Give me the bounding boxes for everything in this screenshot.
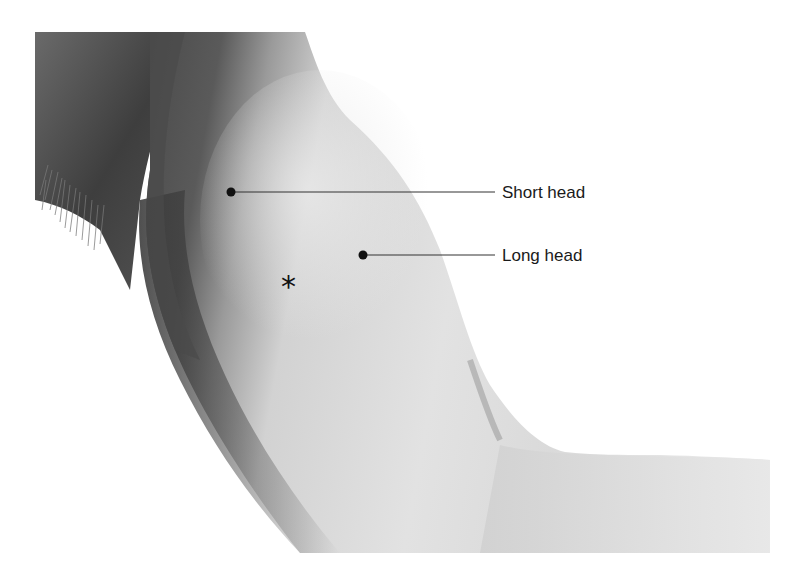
biceps-highlight bbox=[200, 70, 440, 370]
asterisk-marker: * bbox=[281, 272, 296, 302]
short-head-label: Short head bbox=[502, 184, 585, 201]
long-head-label: Long head bbox=[502, 247, 582, 264]
short-head-marker-dot bbox=[227, 188, 236, 197]
arm-illustration bbox=[0, 0, 800, 583]
long-head-marker-dot bbox=[359, 251, 368, 260]
arm-photograph: Short head Long head * bbox=[0, 0, 800, 583]
forearm bbox=[480, 445, 770, 553]
